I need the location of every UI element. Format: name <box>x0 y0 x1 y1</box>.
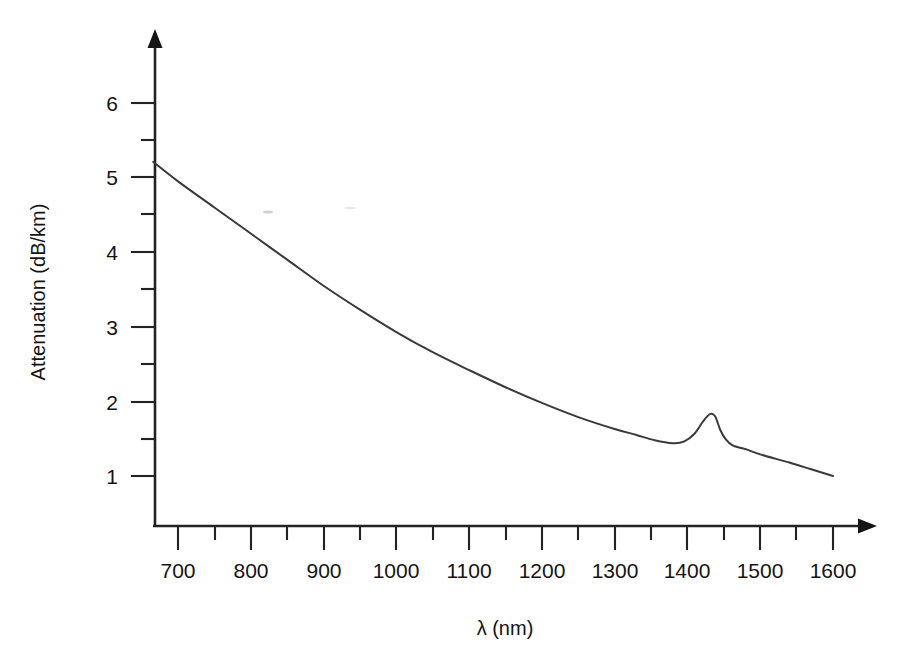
x-tick-label-800: 800 <box>233 559 268 582</box>
y-tick-label-3: 3 <box>106 316 118 339</box>
x-tick-label-1200: 1200 <box>519 559 566 582</box>
y-tick-label-4: 4 <box>106 241 118 264</box>
x-tick-label-1500: 1500 <box>737 559 784 582</box>
x-tick-label-1300: 1300 <box>592 559 639 582</box>
x-axis-title: λ (nm) <box>477 617 534 639</box>
attenuation-curve <box>153 162 833 476</box>
x-tick-label-1000: 1000 <box>373 559 420 582</box>
scan-speck <box>263 210 273 213</box>
x-tick-label-900: 900 <box>306 559 341 582</box>
x-axis-minor-ticks <box>215 526 796 540</box>
y-axis-minor-ticks <box>141 140 155 439</box>
attenuation-plot: 6 5 4 3 2 1 <box>0 0 902 665</box>
x-tick-label-1100: 1100 <box>446 559 491 582</box>
y-axis-title: Attenuation (dB/km) <box>27 204 49 381</box>
chart-figure: 6 5 4 3 2 1 <box>0 0 902 665</box>
scan-speck <box>344 207 356 209</box>
x-axis-arrow-icon <box>858 519 877 534</box>
x-tick-label-1400: 1400 <box>664 559 711 582</box>
x-tick-label-1600: 1600 <box>810 559 857 582</box>
x-tick-label-700: 700 <box>160 559 195 582</box>
y-tick-label-5: 5 <box>106 166 118 189</box>
y-axis-arrow-icon <box>148 29 163 48</box>
y-tick-label-6: 6 <box>106 92 118 115</box>
y-tick-label-1: 1 <box>106 465 118 488</box>
y-tick-label-2: 2 <box>106 391 118 414</box>
